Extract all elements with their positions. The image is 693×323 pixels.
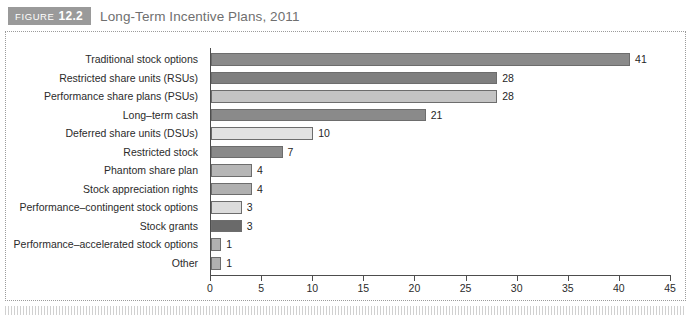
category-label: Long–term cash [6, 106, 204, 125]
figure-label: FIGURE [15, 12, 55, 22]
x-axis-tick-label: 20 [409, 283, 421, 294]
bar-value-label: 10 [318, 128, 330, 139]
x-axis-tick [312, 276, 313, 281]
category-label: Performance–contingent stock options [6, 198, 204, 217]
category-label-text: Stock appreciation rights [83, 184, 198, 195]
bar [211, 164, 252, 177]
x-axis-tick-label: 10 [306, 283, 318, 294]
x-axis-tick [517, 276, 518, 281]
bar-row: 7 [211, 143, 647, 162]
bar-value-label: 4 [257, 184, 263, 195]
bar [211, 90, 497, 103]
bar-row: 28 [211, 69, 647, 88]
bar-row: 1 [211, 235, 647, 254]
category-label: Traditional stock options [6, 50, 204, 69]
category-label: Restricted share units (RSUs) [6, 69, 204, 88]
x-axis-line [210, 275, 671, 276]
figure-title: Long-Term Incentive Plans, 2011 [100, 9, 299, 24]
bar-row: 4 [211, 161, 647, 180]
bar-row: 28 [211, 87, 647, 106]
x-axis-tick [414, 276, 415, 281]
x-axis-tick-label: 15 [357, 283, 369, 294]
x-axis-tick-label: 30 [511, 283, 523, 294]
bar [211, 109, 426, 122]
bar-value-label: 21 [431, 110, 443, 121]
page-bottom-strip [5, 306, 686, 315]
category-label: Stock grants [6, 217, 204, 236]
category-label-text: Traditional stock options [85, 54, 198, 65]
category-label-text: Performance–accelerated stock options [14, 239, 198, 250]
bar [211, 53, 630, 66]
category-label-text: Deferred share units (DSUs) [66, 128, 198, 139]
bar [211, 72, 497, 85]
x-axis-tick [363, 276, 364, 281]
bar-value-label: 28 [502, 91, 514, 102]
x-axis-tick [670, 276, 671, 281]
bar-row: 3 [211, 217, 647, 236]
bar [211, 257, 221, 270]
x-axis-tick-label: 5 [258, 283, 264, 294]
chart-frame: Traditional stock optionsRestricted shar… [5, 31, 686, 301]
category-label: Restricted stock [6, 143, 204, 162]
x-axis-tick [466, 276, 467, 281]
x-axis-tick-label: 25 [460, 283, 472, 294]
x-axis-tick [619, 276, 620, 281]
x-axis-tick-label: 0 [207, 283, 213, 294]
bar-value-label: 3 [247, 202, 253, 213]
bar-value-label: 4 [257, 165, 263, 176]
bar-value-label: 7 [288, 147, 294, 158]
bar [211, 146, 283, 159]
category-axis-labels: Traditional stock optionsRestricted shar… [6, 50, 204, 273]
category-label: Other [6, 254, 204, 273]
category-label-text: Phantom share plan [104, 165, 198, 176]
bar-value-label: 1 [226, 239, 232, 250]
bar [211, 238, 221, 251]
x-axis-tick [568, 276, 569, 281]
x-axis-tick [261, 276, 262, 281]
bar-row: 21 [211, 106, 647, 125]
bar-row: 4 [211, 180, 647, 199]
figure-number-badge: FIGURE 12.2 [8, 7, 91, 25]
plot-area: Traditional stock optionsRestricted shar… [6, 32, 687, 302]
bar [211, 201, 242, 214]
x-axis-tick-label: 45 [664, 283, 676, 294]
bar-value-label: 41 [635, 54, 647, 65]
bar-row: 10 [211, 124, 647, 143]
category-label-text: Performance share plans (PSUs) [44, 91, 198, 102]
category-label-text: Restricted stock [123, 147, 198, 158]
category-label-text: Performance–contingent stock options [19, 202, 198, 213]
bar [211, 127, 313, 140]
figure-number: 12.2 [59, 10, 84, 22]
x-axis-tick-label: 40 [613, 283, 625, 294]
category-label: Stock appreciation rights [6, 180, 204, 199]
x-axis-tick-label: 35 [562, 283, 574, 294]
figure-container: FIGURE 12.2 Long-Term Incentive Plans, 2… [0, 0, 693, 323]
bar-series: 41282821107443311 [211, 50, 647, 273]
figure-header: FIGURE 12.2 Long-Term Incentive Plans, 2… [8, 6, 300, 26]
bar-value-label: 28 [502, 73, 514, 84]
category-label: Performance share plans (PSUs) [6, 87, 204, 106]
bar [211, 220, 242, 233]
bar-row: 41 [211, 50, 647, 69]
bar [211, 183, 252, 196]
bar-row: 1 [211, 254, 647, 273]
category-label: Performance–accelerated stock options [6, 235, 204, 254]
category-label: Phantom share plan [6, 161, 204, 180]
category-label-text: Stock grants [140, 221, 198, 232]
bar-row: 3 [211, 198, 647, 217]
x-axis-tick [210, 276, 211, 281]
category-label-text: Long–term cash [123, 110, 198, 121]
category-label-text: Other [172, 258, 198, 269]
bar-value-label: 3 [247, 221, 253, 232]
category-label-text: Restricted share units (RSUs) [59, 73, 198, 84]
bar-value-label: 1 [226, 258, 232, 269]
category-label: Deferred share units (DSUs) [6, 124, 204, 143]
